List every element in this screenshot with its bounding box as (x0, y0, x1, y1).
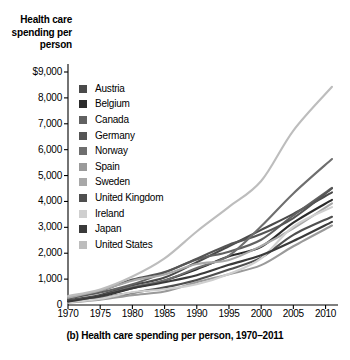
legend-item[interactable]: United Kingdom (79, 190, 163, 206)
legend-swatch-icon (79, 194, 87, 202)
legend-item[interactable]: Austria (79, 81, 163, 97)
legend-item-label: Spain (95, 162, 120, 172)
x-tick-label: 2010 (306, 308, 346, 319)
legend-item-label: United States (95, 240, 152, 250)
legend-swatch-icon (79, 225, 87, 233)
legend-item[interactable]: Belgium (79, 97, 163, 113)
legend-item-label: Norway (95, 146, 128, 156)
x-axis-tick-labels: 197019751980198519901995200020052010 (0, 0, 350, 360)
legend-item[interactable]: Canada (79, 112, 163, 128)
legend-swatch-icon (79, 100, 87, 108)
figure-caption: (b) Health care spending per person, 197… (0, 330, 350, 341)
legend-swatch-icon (79, 132, 87, 140)
legend-item[interactable]: Germany (79, 128, 163, 144)
legend-item-label: Belgium (95, 99, 130, 109)
legend-item-label: Sweden (95, 177, 130, 187)
legend-swatch-icon (79, 85, 87, 93)
legend-item[interactable]: United States (79, 237, 163, 253)
legend-item-label: Austria (95, 84, 125, 94)
legend-item[interactable]: Ireland (79, 206, 163, 222)
legend-item[interactable]: Japan (79, 221, 163, 237)
legend-swatch-icon (79, 178, 87, 186)
legend-item-label: Germany (95, 131, 135, 141)
legend-item-label: United Kingdom (95, 193, 163, 203)
health-care-spending-chart: Health care spending per person $9,0008,… (0, 0, 350, 360)
legend-item-label: Ireland (95, 209, 124, 219)
legend-item-label: Canada (95, 115, 129, 125)
legend-item[interactable]: Sweden (79, 175, 163, 191)
legend-item[interactable]: Spain (79, 159, 163, 175)
legend-swatch-icon (79, 116, 87, 124)
legend-item-label: Japan (95, 224, 121, 234)
chart-legend: AustriaBelgiumCanadaGermanyNorwaySpainSw… (79, 81, 163, 253)
legend-swatch-icon (79, 241, 87, 249)
legend-item[interactable]: Norway (79, 143, 163, 159)
legend-swatch-icon (79, 147, 87, 155)
legend-swatch-icon (79, 210, 87, 218)
legend-swatch-icon (79, 163, 87, 171)
